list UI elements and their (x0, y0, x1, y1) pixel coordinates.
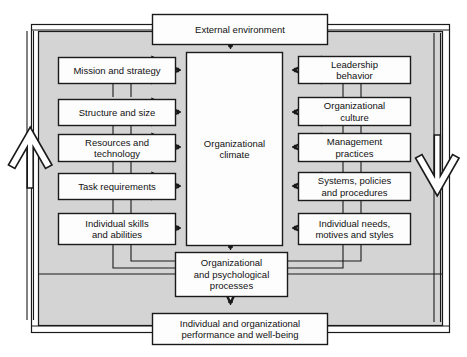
box-individual-and-organizational-performance (153, 314, 328, 345)
box-systems-policies-and-procedures (299, 173, 411, 201)
box-individual-skills-and-abilities (59, 214, 176, 245)
box-resources-and-technology (59, 135, 176, 162)
box-structure-and-size (59, 100, 176, 126)
box-external-environment (153, 15, 328, 45)
diagram-canvas: External environment Organizational clim… (0, 0, 467, 357)
box-organizational-culture (299, 98, 411, 126)
box-mission-and-strategy (59, 58, 176, 84)
box-individual-needs-motives-and-styles (299, 214, 411, 245)
box-management-practices (299, 134, 411, 162)
label-organizational-climate: Organizational climate (186, 52, 283, 246)
box-organizational-and-psychological-processes (176, 253, 288, 297)
box-leadership-behavior (299, 57, 411, 84)
box-task-requirements (59, 174, 176, 200)
